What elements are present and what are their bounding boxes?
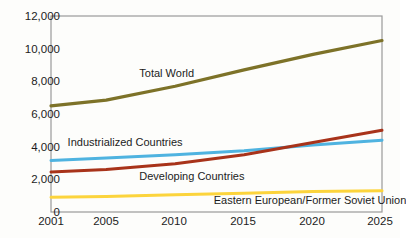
- x-axis-tick-2015: 2015: [221, 216, 265, 228]
- y-axis-tick-2000: 2,000: [31, 174, 60, 186]
- series-annotation-industrialized-countries: Industrialized Countries: [68, 137, 183, 148]
- x-axis-tick-2025: 2025: [358, 216, 402, 228]
- y-axis-tick-8000: 8,000: [31, 76, 60, 88]
- x-axis-tick-2020: 2020: [290, 216, 334, 228]
- x-axis-tick-2001: 2001: [29, 216, 73, 228]
- plot-area-background: [51, 16, 382, 212]
- x-axis-tick-2010: 2010: [152, 216, 196, 228]
- y-axis-tick-12000: 12,000: [25, 11, 60, 23]
- y-axis-tick-6000: 6,000: [31, 109, 60, 121]
- x-axis-tick-2005: 2005: [84, 216, 128, 228]
- y-axis-tick-10000: 10,000: [25, 44, 60, 56]
- series-annotation-eastern-european-former-soviet-union: Eastern European/Former Soviet Union: [214, 195, 406, 206]
- y-axis-tick-4000: 4,000: [31, 142, 60, 154]
- series-annotation-total-world: Total World: [139, 68, 194, 79]
- series-annotation-developing-countries: Developing Countries: [139, 171, 244, 182]
